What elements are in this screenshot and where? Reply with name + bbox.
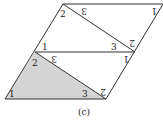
angle-label-2-flipped: 2 xyxy=(100,87,106,97)
angle-label-2: 2 xyxy=(32,58,38,68)
angle-label-1-upper-flipped: 1 xyxy=(151,6,157,16)
angle-label-1-middle: 1 xyxy=(42,42,48,52)
upper-diagonal-line xyxy=(63,4,135,52)
angle-label-3: 3 xyxy=(82,89,88,99)
angle-label-3-upper-flipped: 3 xyxy=(81,6,87,16)
angle-label-1: 1 xyxy=(9,89,15,99)
parallelogram-diagram: 1 2 3 3 1 2 1 2 3 3 1 2 (c) xyxy=(0,0,163,121)
figure-caption: (c) xyxy=(78,107,90,117)
angle-label-3-middle: 3 xyxy=(111,42,117,52)
angle-label-2-middle: 2 xyxy=(60,9,66,19)
angle-label-2-upper-flipped: 2 xyxy=(129,38,135,48)
angle-label-3-flipped: 3 xyxy=(51,54,57,64)
angle-label-1-flipped: 1 xyxy=(123,54,129,64)
